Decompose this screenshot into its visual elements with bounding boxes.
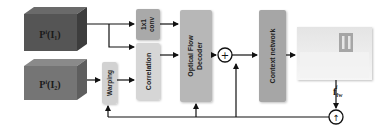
warping-module: Warping [102, 62, 117, 104]
upsample-operator: ↑ [329, 110, 343, 124]
conv-1x1-module: 1x1 conv [136, 9, 160, 40]
conv-label-line1: 1x1 [140, 19, 147, 30]
output-flow-image [297, 27, 372, 80]
add-operator: + [218, 48, 232, 62]
output-flow-label: ffwi [333, 84, 343, 98]
pwc-flow-diagram: Pi(I1) Pi(I2) 1x1 conv Warping Correlati… [0, 0, 386, 130]
p1-label: Pi(I1) [39, 29, 60, 41]
decoder-label-line2: Decoder [196, 42, 203, 70]
plus-icon: + [221, 50, 229, 61]
correlation-label: Correlation [145, 53, 152, 90]
feature-block-p1: Pi(I1) [24, 7, 87, 51]
conv-label-line2: conv [148, 17, 155, 33]
p2-label: Pi(I2) [39, 79, 60, 91]
optical-flow-decoder-module: Optical Flow Decoder [180, 10, 212, 102]
context-network-module: Context network [259, 10, 286, 102]
correlation-module: Correlation [136, 43, 160, 100]
context-label: Context network [269, 28, 276, 83]
decoder-label-line1: Optical Flow [187, 35, 195, 77]
feature-block-p2: Pi(I2) [24, 59, 87, 100]
warping-label: Warping [106, 70, 114, 96]
edge-p1-to-correlation [109, 24, 134, 47]
up-arrow-icon: ↑ [332, 113, 339, 123]
